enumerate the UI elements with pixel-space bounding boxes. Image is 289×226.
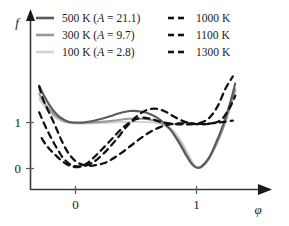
x-axis-label: φ bbox=[254, 202, 261, 217]
legend-label-2: 1000 K bbox=[196, 12, 231, 24]
x-tick-label-0: 0 bbox=[72, 197, 79, 212]
legend-label-1: 500 K (A = 21.1) bbox=[62, 12, 141, 25]
legend-label-5: 100 K (A = 2.8) bbox=[62, 46, 135, 59]
x-tick-label-1: 1 bbox=[193, 197, 200, 212]
y-tick-label-0: 0 bbox=[15, 161, 22, 176]
legend-label-6: 1300 K bbox=[196, 46, 231, 58]
chart-svg: f φ 1 0 0 1 500 K (A = 21.1)1000 K300 K … bbox=[0, 0, 289, 226]
legend-label-4: 1100 K bbox=[196, 29, 230, 41]
legend: 500 K (A = 21.1)1000 K300 K (A = 9.7)110… bbox=[36, 12, 231, 59]
y-tick-label-1: 1 bbox=[15, 115, 22, 130]
legend-label-3: 300 K (A = 9.7) bbox=[62, 29, 135, 42]
free-energy-chart: f φ 1 0 0 1 500 K (A = 21.1)1000 K300 K … bbox=[0, 0, 289, 226]
